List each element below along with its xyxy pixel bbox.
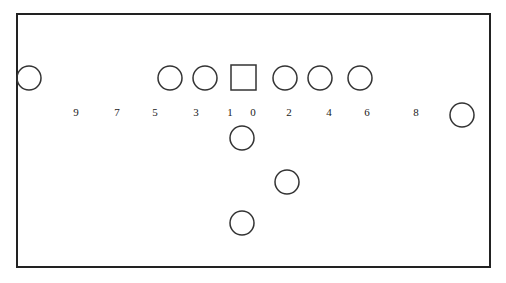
player-circle-icon xyxy=(158,66,182,90)
hole-number: 8 xyxy=(413,106,419,118)
player-circle-icon xyxy=(273,66,297,90)
player-circle-icon xyxy=(450,103,474,127)
hole-number: 4 xyxy=(326,106,332,118)
players-group xyxy=(17,66,474,235)
hole-number: 2 xyxy=(286,106,292,118)
hole-number: 7 xyxy=(114,106,120,118)
hole-number: 6 xyxy=(364,106,370,118)
center-square-icon xyxy=(231,65,256,90)
player-circle-icon xyxy=(230,126,254,150)
hole-numbers-group: 9753102468 xyxy=(73,106,419,118)
hole-number: 9 xyxy=(73,106,79,118)
player-circle-icon xyxy=(230,211,254,235)
hole-number: 3 xyxy=(193,106,199,118)
hole-number: 5 xyxy=(152,106,158,118)
player-circle-icon xyxy=(193,66,217,90)
formation-diagram: 9753102468 xyxy=(0,0,506,283)
hole-number: 1 xyxy=(227,106,233,118)
player-circle-icon xyxy=(348,66,372,90)
player-circle-icon xyxy=(308,66,332,90)
hole-number: 0 xyxy=(250,106,256,118)
player-circle-icon xyxy=(275,170,299,194)
player-circle-icon xyxy=(17,66,41,90)
